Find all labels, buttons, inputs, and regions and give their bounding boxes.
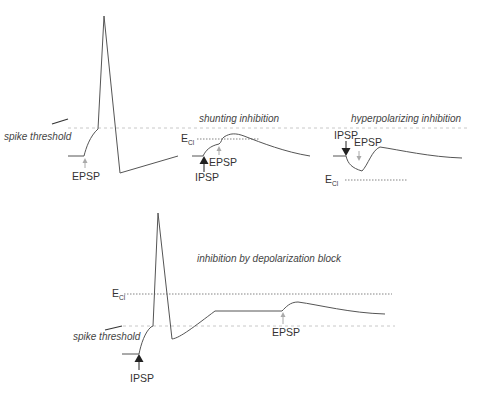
panel-shunting: shunting inhibition ECl EPSP IPSP — [181, 113, 310, 183]
epsp-label: EPSP — [354, 136, 382, 148]
inhibition-diagram: spike threshold EPSP shunting inhibition… — [0, 0, 478, 396]
threshold-label: spike threshold — [73, 331, 141, 342]
threshold-label: spike threshold — [4, 131, 72, 142]
epsp-label: EPSP — [272, 326, 300, 338]
ipsp-label: IPSP — [195, 171, 219, 183]
threshold-pointer — [52, 119, 68, 124]
panel-depolarization-block: inhibition by depolarization block ECl s… — [73, 213, 395, 384]
panel-title-depolarization-block: inhibition by depolarization block — [197, 253, 342, 264]
panel-title-hyperpolarizing: hyperpolarizing inhibition — [351, 113, 462, 124]
trace-hyperpolarizing — [333, 147, 462, 171]
threshold-pointer — [105, 326, 122, 330]
epsp-label: EPSP — [72, 170, 100, 182]
ecl-label-hyperpolarizing: ECl — [325, 173, 339, 187]
epsp-arrowhead-icon — [83, 158, 88, 163]
ipsp-arrowhead-icon — [200, 156, 209, 164]
ipsp-arrowhead-icon — [135, 354, 144, 362]
panel-hyperpolarizing: hyperpolarizing inhibition IPSP EPSP ECl — [325, 113, 462, 187]
trace-excitation — [68, 16, 178, 173]
epsp-arrowhead-icon — [357, 156, 362, 161]
ecl-label-shunting: ECl — [181, 132, 195, 146]
epsp-label: EPSP — [209, 156, 237, 168]
trace-shunting — [192, 134, 310, 156]
trace-depolarization-block — [122, 213, 385, 354]
panel-excitation: spike threshold EPSP — [4, 16, 178, 182]
ipsp-arrowhead-icon — [342, 148, 351, 156]
epsp-arrowhead-icon — [217, 146, 222, 151]
ecl-label-block: ECl — [112, 287, 126, 301]
ipsp-label: IPSP — [130, 372, 154, 384]
panel-title-shunting: shunting inhibition — [199, 113, 279, 124]
epsp-arrowhead-icon — [281, 312, 286, 317]
